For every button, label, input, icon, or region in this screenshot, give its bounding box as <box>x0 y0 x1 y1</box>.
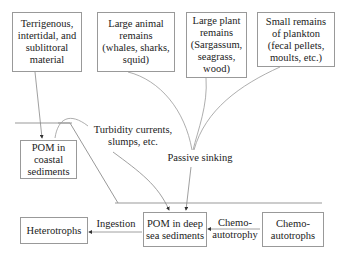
pom-coastal-box: POM in coastal sediments <box>20 140 77 179</box>
source-small-plankton: Small remains of plankton (fecal pellets… <box>257 12 335 67</box>
passive-sinking-label: Passive sinking <box>160 152 240 164</box>
chemoautotrophy-label: Chemo- autotrophy <box>210 217 260 241</box>
chemoautotrophs-box: Chemo- autotrophs <box>262 212 324 247</box>
ingestion-label: Ingestion <box>92 218 140 230</box>
heterotrophs-box: Heterotrophs <box>20 217 88 244</box>
source-terrigenous: Terrigenous, intertidal, and sublittoral… <box>12 12 82 72</box>
turbidity-label: Turbidity currents, slumps, etc. <box>83 124 183 148</box>
source-large-plant: Large plant remains (Sargassum, seagrass… <box>186 12 247 78</box>
source-large-animal: Large animal remains (whales, sharks, sq… <box>97 12 175 72</box>
pom-deep-box: POM in deep sea sediments <box>143 212 207 247</box>
